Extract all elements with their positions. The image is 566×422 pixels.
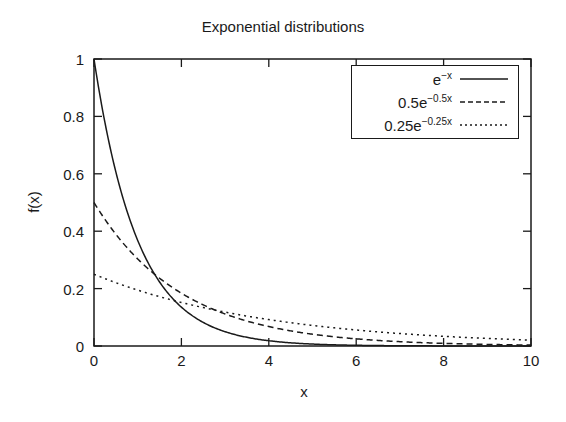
y-axis-label: f(x) <box>25 191 42 213</box>
legend-swatch-solid <box>460 78 508 80</box>
x-tick-label: 4 <box>265 352 273 369</box>
y-tick-label: 0.4 <box>63 223 84 240</box>
legend-item-exp3: 0.25e−0.25x <box>384 114 508 136</box>
legend-label: 0.5e−0.5x <box>398 93 452 111</box>
x-tick-label: 8 <box>439 352 447 369</box>
y-tick-label: 1 <box>76 51 84 68</box>
legend: e−x 0.5e−0.5x 0.25e−0.25x <box>351 65 519 139</box>
y-tick-label: 0.8 <box>63 108 84 125</box>
chart-title: Exponential distributions <box>0 18 566 35</box>
x-tick-label: 10 <box>523 352 540 369</box>
legend-label: e−x <box>433 70 452 88</box>
y-tick-label: 0 <box>76 338 84 355</box>
legend-item-exp1: e−x <box>433 68 508 90</box>
y-tick-label: 0.2 <box>63 280 84 297</box>
curve-dotted <box>94 274 531 340</box>
x-axis-label: x <box>300 383 308 400</box>
x-tick-label: 6 <box>352 352 360 369</box>
legend-swatch-dashed <box>460 101 508 103</box>
legend-swatch-dotted <box>460 124 508 126</box>
curve-dashed <box>94 203 531 346</box>
x-tick-label: 2 <box>177 352 185 369</box>
y-tick-label: 0.6 <box>63 165 84 182</box>
legend-label: 0.25e−0.25x <box>384 116 452 134</box>
legend-item-exp2: 0.5e−0.5x <box>398 91 508 113</box>
plot-canvas <box>0 0 566 422</box>
x-tick-label: 0 <box>90 352 98 369</box>
